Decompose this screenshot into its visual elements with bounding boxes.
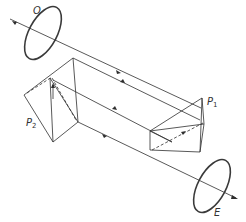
label-p1: P1	[207, 97, 218, 109]
ray-arrow-icon	[112, 106, 117, 110]
label-eyepiece: E	[214, 208, 220, 218]
prism-p1	[150, 98, 204, 152]
eyepiece-ring	[186, 154, 238, 218]
upper-middle-ray	[73, 58, 200, 120]
incoming-ray	[10, 19, 201, 108]
label-p2: P2	[26, 118, 37, 130]
optical-diagram	[0, 0, 246, 222]
label-objective: O	[33, 6, 41, 16]
objective-ring	[17, 1, 69, 65]
outgoing-ray	[78, 122, 236, 198]
ray-arrow-icon	[231, 195, 238, 199]
